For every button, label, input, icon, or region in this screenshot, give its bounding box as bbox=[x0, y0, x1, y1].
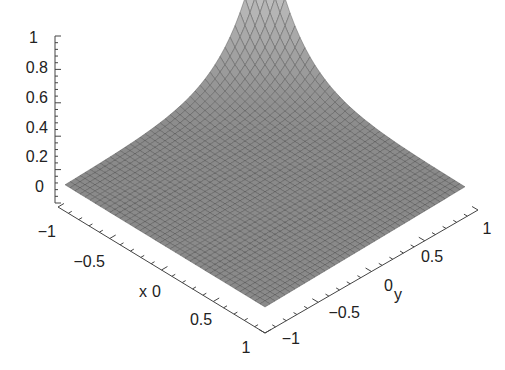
z-tick-0.8: 0.8 bbox=[26, 59, 48, 76]
x-axis-title: x bbox=[139, 283, 147, 300]
y-tick-0.5: 0.5 bbox=[421, 248, 443, 265]
y-axis-title: y bbox=[394, 286, 402, 303]
y-tick--1: −1 bbox=[282, 330, 300, 347]
y-tick--0.5: −0.5 bbox=[328, 304, 360, 321]
z-tick-1: 1 bbox=[29, 29, 38, 46]
surface-mesh bbox=[65, 0, 465, 307]
z-tick-0.2: 0.2 bbox=[26, 148, 48, 165]
x-tick-0: 0 bbox=[152, 283, 161, 300]
x-tick--0.5: −0.5 bbox=[73, 253, 105, 270]
x-tick-0.5: 0.5 bbox=[190, 311, 212, 328]
z-tick-0: 0 bbox=[35, 178, 44, 195]
x-tick--1: −1 bbox=[38, 223, 56, 240]
z-tick-0.6: 0.6 bbox=[26, 89, 48, 106]
z-tick-0.4: 0.4 bbox=[26, 119, 48, 136]
surface-plot: 1 0.8 0.6 0.4 0.2 0 −1 −0.5 0 x 0.5 1 −1… bbox=[0, 0, 505, 370]
x-tick-1: 1 bbox=[242, 339, 251, 356]
y-tick-1: 1 bbox=[483, 220, 492, 237]
y-tick-0: 0 bbox=[384, 277, 393, 294]
